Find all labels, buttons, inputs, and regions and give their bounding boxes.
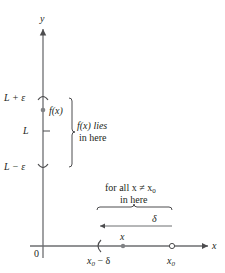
x0-open-point (169, 243, 174, 248)
x-interval-brace (97, 204, 172, 210)
limit-label: L (22, 125, 29, 136)
x-axis-label: x (211, 240, 217, 251)
x-point (121, 244, 125, 248)
lower-bound-label: L − ε (3, 161, 25, 172)
y-axis-label: y (39, 13, 45, 24)
delta-label: δ (152, 213, 157, 224)
upper-bound-label: L + ε (3, 92, 25, 103)
origin-label: 0 (34, 248, 39, 259)
fx-point (41, 108, 46, 113)
fx-label: f(x) (49, 105, 64, 117)
x0-label: x0 (166, 255, 175, 268)
y-note-line1: f(x) lies (77, 120, 107, 132)
y-note-line2: in here (79, 132, 107, 143)
x-point-label: x (119, 231, 125, 242)
x-note-line2: in here (120, 194, 148, 205)
left-bound-label: x0 − δ (86, 255, 111, 268)
y-interval-brace (69, 98, 75, 167)
epsilon-delta-diagram: y x 0 L + ε f(x) L L − ε f(x) lies in he… (0, 0, 225, 273)
